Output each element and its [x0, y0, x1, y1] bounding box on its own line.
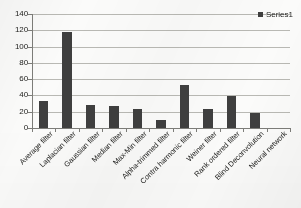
x-axis-tick [126, 128, 127, 132]
y-axis-tick [28, 63, 32, 64]
y-axis-tick [28, 47, 32, 48]
y-axis-tick-label: 80 [2, 59, 28, 67]
bar [39, 101, 48, 128]
y-axis-tick-label: 140 [2, 10, 28, 18]
y-axis-tick-label: 60 [2, 75, 28, 83]
y-axis-tick [28, 112, 32, 113]
y-axis-tick [28, 79, 32, 80]
chart-legend: Series1 [258, 10, 293, 19]
y-axis-tick-label: 20 [2, 108, 28, 116]
x-axis-tick [79, 128, 80, 132]
x-axis-tick [196, 128, 197, 132]
legend-swatch-series1 [258, 12, 263, 17]
y-axis-tick [28, 95, 32, 96]
x-axis-labels: Average filterLaplacian filterGaussian f… [0, 130, 301, 208]
y-axis-line [32, 14, 33, 129]
grid-line [32, 14, 290, 15]
y-axis-tick-label: 40 [2, 91, 28, 99]
x-axis-tick [32, 128, 33, 132]
x-axis-tick [149, 128, 150, 132]
x-axis-tick [267, 128, 268, 132]
x-axis-tick [55, 128, 56, 132]
x-axis-tick [173, 128, 174, 132]
y-axis-tick-label: 100 [2, 43, 28, 51]
x-axis-tick [220, 128, 221, 132]
y-axis-tick [28, 30, 32, 31]
bar-chart: 140120100806040200 Series1 Average filte… [0, 0, 301, 208]
x-axis-tick [243, 128, 244, 132]
y-axis-tick-label: 120 [2, 26, 28, 34]
x-axis-tick [290, 128, 291, 132]
legend-label-series1: Series1 [266, 10, 293, 19]
y-axis-tick [28, 14, 32, 15]
x-axis-tick [102, 128, 103, 132]
